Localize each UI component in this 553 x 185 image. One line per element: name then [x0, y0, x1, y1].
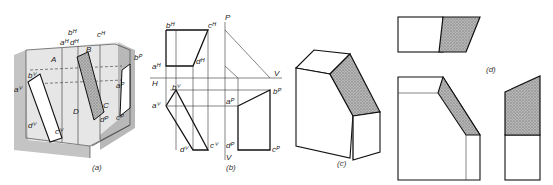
- label-V-right: V: [274, 69, 280, 78]
- label-aP: aᴾ: [116, 81, 124, 90]
- top-view-inclined: [439, 17, 480, 52]
- miter-line-2: [225, 66, 238, 78]
- panel-a-pictorial: bᴴ cᴴ aᴴ dᴴ B A C D bⱽ aⱽ dⱽ cⱽ bᴾ aᴾ dᴾ…: [14, 28, 142, 172]
- label-b-dP: dᴾ: [226, 141, 234, 150]
- panel-c-isometric: (c): [296, 50, 380, 168]
- label-b-dH: dᴴ: [196, 57, 205, 66]
- label-b-dV: dⱽ: [180, 145, 189, 154]
- label-V-bottom: V: [226, 153, 232, 162]
- label-D: D: [73, 107, 79, 116]
- label-b-aH: aᴴ: [152, 62, 161, 71]
- label-dH: dᴴ: [70, 38, 79, 47]
- label-b-bP: bᴾ: [273, 87, 281, 96]
- side-view: [505, 135, 540, 180]
- miter-line-1: [225, 30, 270, 78]
- top-view: [398, 17, 443, 52]
- panel-d-multiview: (d): [398, 17, 540, 180]
- label-b-bV: bⱽ: [172, 83, 181, 92]
- technical-drawing-figure: bᴴ cᴴ aᴴ dᴴ B A C D bⱽ aⱽ dⱽ cⱽ bᴾ aᴾ dᴾ…: [0, 0, 553, 185]
- caption-a: (a): [92, 163, 102, 172]
- label-cP: cᴾ: [116, 113, 124, 122]
- panel-b-orthographic: P H V V bᴴ cᴴ aᴴ dᴴ bⱽ aⱽ dⱽ cⱽ aᴾ bᴾ dᴾ…: [150, 13, 282, 172]
- caption-d: (d): [486, 65, 496, 74]
- label-C: C: [103, 101, 109, 110]
- caption-b: (b): [226, 163, 236, 172]
- label-A: A: [50, 55, 56, 64]
- label-B: B: [86, 45, 92, 54]
- label-b-aP: aᴾ: [226, 97, 234, 106]
- p-projection: [120, 64, 130, 116]
- label-b-aV: aⱽ: [152, 101, 161, 110]
- label-H: H: [152, 79, 158, 88]
- label-b-cP: cᴾ: [272, 145, 280, 154]
- label-b-cH: cᴴ: [208, 21, 217, 30]
- label-b-bH: bᴴ: [166, 21, 175, 30]
- label-cH: cᴴ: [97, 30, 106, 39]
- label-P: P: [225, 13, 231, 22]
- label-b-cV: cⱽ: [210, 141, 219, 150]
- label-bP: bᴾ: [134, 53, 142, 62]
- label-aH: aᴴ: [60, 38, 69, 47]
- label-dP: dᴾ: [100, 115, 108, 124]
- label-bH: bᴴ: [68, 28, 77, 37]
- side-face: [353, 112, 380, 160]
- side-view-inclined: [505, 76, 540, 135]
- caption-c: (c): [337, 159, 347, 168]
